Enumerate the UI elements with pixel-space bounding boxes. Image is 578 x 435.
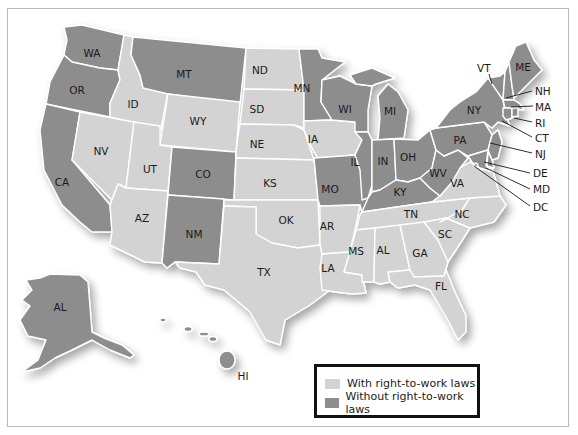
label-IA: IA [308,133,319,145]
label-WV: WV [429,167,447,179]
label-KY: KY [394,186,408,198]
label-AL: AL [376,244,389,256]
state-AK[interactable] [20,274,134,372]
label-OR: OR [69,84,85,96]
label-SD: SD [250,103,265,115]
label-UT: UT [143,163,158,175]
label-GA: GA [412,247,428,259]
label-ME: ME [515,61,531,73]
hawaii-island-3[interactable] [199,332,209,336]
legend-label: Without right-to-work laws [346,390,478,416]
label-MO: MO [321,183,338,195]
state-CT[interactable] [503,108,512,120]
state-FL[interactable] [388,270,466,340]
label-ND: ND [252,64,268,76]
label-WY: WY [190,115,207,127]
label-ID: ID [127,98,138,110]
label-WA: WA [84,47,102,59]
label-TN: TN [403,208,418,220]
state-NE[interactable] [236,124,314,160]
contiguous-states [40,25,542,345]
label-MT: MT [176,68,192,80]
label-NJ: NJ [535,148,546,160]
state-MI[interactable] [350,68,395,86]
label-DC: DC [533,201,548,213]
alaska-hawaii [20,274,235,372]
label-MI: MI [384,105,396,117]
label-MS: MS [348,245,364,257]
label-HI: HI [238,370,249,382]
hawaii-island-2[interactable] [184,327,192,332]
state-HI[interactable] [219,351,235,369]
label-WI: WI [338,103,351,115]
label-OH: OH [400,151,416,163]
legend: With right-to-work laws Without right-to… [314,364,480,418]
label-NE: NE [250,138,265,150]
label-NH: NH [535,85,551,97]
hawaii-island-4[interactable] [209,337,217,342]
label-LA: LA [321,262,335,274]
label-NV: NV [93,145,109,157]
hawaii-island-1[interactable] [160,318,166,322]
legend-swatch-dark [325,398,339,408]
legend-swatch-light [325,379,340,389]
label-KS: KS [263,177,277,189]
label-CT: CT [535,132,549,144]
label-SC: SC [438,228,452,240]
label-TX: TX [256,266,271,278]
label-MD: MD [533,183,550,195]
label-AR: AR [320,220,334,232]
label-NC: NC [454,208,469,220]
label-DE: DE [533,167,548,179]
label-AK: AL [53,301,66,313]
label-IL: IL [351,156,360,168]
label-CO: CO [195,168,211,180]
legend-label: With right-to-work laws [347,377,475,390]
label-IN: IN [378,155,389,167]
label-MN: MN [294,82,311,94]
label-OK: OK [278,214,294,226]
label-AZ: AZ [135,212,149,224]
label-MA: MA [535,101,552,113]
label-FL: FL [435,280,447,292]
label-RI: RI [535,117,545,129]
label-VA: VA [450,177,465,189]
label-PA: PA [454,134,468,146]
state-RI[interactable] [512,108,518,117]
label-NY: NY [467,104,482,116]
legend-item-without-laws: Without right-to-work laws [325,393,477,412]
label-VT: VT [477,62,491,74]
label-NM: NM [186,228,203,240]
us-map: WA OR CA ID NV MT WY UT AZ CO NM ND SD N… [0,0,578,435]
label-CA: CA [55,176,70,188]
